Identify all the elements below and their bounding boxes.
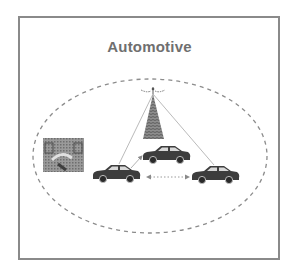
- cell-tower-icon: [141, 87, 165, 139]
- car-right-icon: [192, 166, 239, 184]
- diagram-scene: [0, 0, 299, 272]
- car-left-icon: [93, 165, 140, 183]
- dashboard-photo-icon: [43, 138, 84, 172]
- v2v-dotted-arrow: [146, 175, 190, 180]
- car-middle-icon: [143, 146, 190, 164]
